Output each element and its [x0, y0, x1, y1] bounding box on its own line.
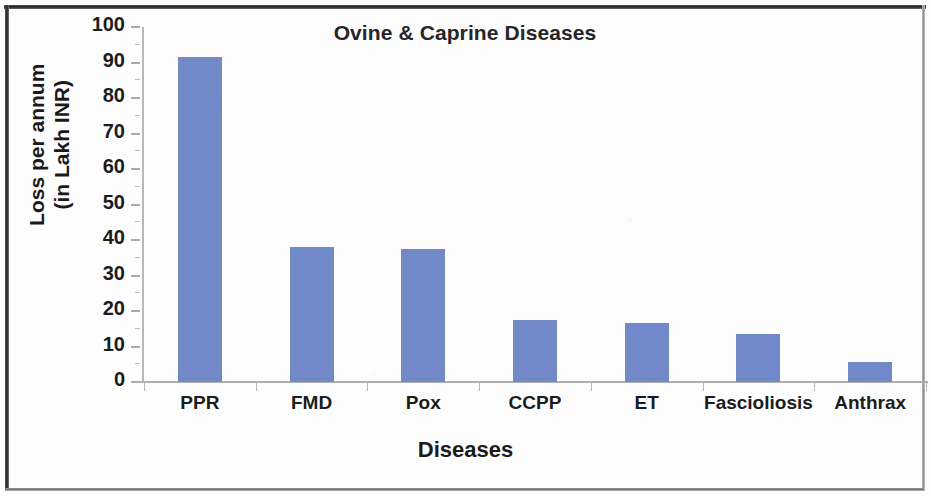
- y-axis-minor-tick-mark: [135, 79, 140, 80]
- x-axis-tick-mark: [703, 383, 704, 391]
- y-axis-minor-tick-mark: [135, 363, 140, 364]
- y-axis-tick-label: 50: [65, 191, 125, 214]
- figure-border-bottom: [5, 488, 923, 491]
- y-axis-tick-group: 0102030405060708090100: [0, 0, 143, 410]
- y-axis-tick-mark: [131, 133, 140, 135]
- bar: [290, 247, 334, 382]
- x-axis-tick-label: Anthrax: [834, 392, 906, 414]
- y-axis-tick-mark: [131, 168, 140, 170]
- y-axis-tick-label: 60: [65, 155, 125, 178]
- x-axis-tick-label: Fascioliosis: [704, 392, 813, 414]
- x-axis-label-group: PPRFMDPoxCCPPETFascioliosisAnthrax: [0, 392, 931, 426]
- x-axis-tick-mark: [144, 383, 145, 391]
- y-axis-minor-tick-mark: [135, 186, 140, 187]
- bar: [513, 320, 557, 382]
- y-axis-tick-mark: [131, 26, 140, 28]
- x-axis-tick-label: CCPP: [509, 392, 562, 414]
- plot-area: [143, 27, 928, 382]
- y-axis-minor-tick-mark: [135, 150, 140, 151]
- y-axis-tick-label: 90: [65, 49, 125, 72]
- bar: [848, 362, 892, 382]
- y-axis-tick-mark: [131, 239, 140, 241]
- bar: [736, 334, 780, 382]
- bar-series: [143, 27, 928, 382]
- x-axis-tick-mark: [256, 383, 257, 391]
- y-axis-tick-label: 80: [65, 84, 125, 107]
- x-axis-tick-mark: [479, 383, 480, 391]
- y-axis-tick-label: 20: [65, 297, 125, 320]
- chart-figure: Ovine & Caprine Diseases Loss per annum …: [0, 0, 931, 496]
- y-axis-minor-tick-mark: [135, 257, 140, 258]
- y-axis-tick-label: 10: [65, 333, 125, 356]
- x-axis-tick-label: PPR: [180, 392, 219, 414]
- y-axis-tick-mark: [131, 275, 140, 277]
- x-axis-tick-mark: [591, 383, 592, 391]
- x-axis-tick-mark: [367, 383, 368, 391]
- y-axis-tick-label: 70: [65, 120, 125, 143]
- y-axis-minor-tick-mark: [135, 115, 140, 116]
- bar: [625, 323, 669, 382]
- y-axis-tick-mark: [131, 62, 140, 64]
- x-axis-tick-mark: [926, 383, 927, 391]
- y-axis-tick-mark: [131, 310, 140, 312]
- y-axis-minor-tick-mark: [135, 221, 140, 222]
- y-axis-minor-tick-mark: [135, 292, 140, 293]
- y-axis-tick-label: 100: [65, 13, 125, 36]
- y-axis-tick-label: 40: [65, 226, 125, 249]
- bar: [401, 249, 445, 382]
- y-axis-tick-mark: [131, 346, 140, 348]
- y-axis-tick-mark: [131, 204, 140, 206]
- x-axis-title: Diseases: [0, 437, 931, 463]
- x-axis-tick-label: FMD: [291, 392, 332, 414]
- y-axis-minor-tick-mark: [135, 44, 140, 45]
- x-axis-tick-mark: [814, 383, 815, 391]
- y-axis-tick-mark: [131, 97, 140, 99]
- x-axis-tick-label: ET: [635, 392, 659, 414]
- y-axis-minor-tick-mark: [135, 328, 140, 329]
- x-axis-tick-label: Pox: [406, 392, 441, 414]
- bar: [178, 57, 222, 382]
- y-axis-tick-label: 30: [65, 262, 125, 285]
